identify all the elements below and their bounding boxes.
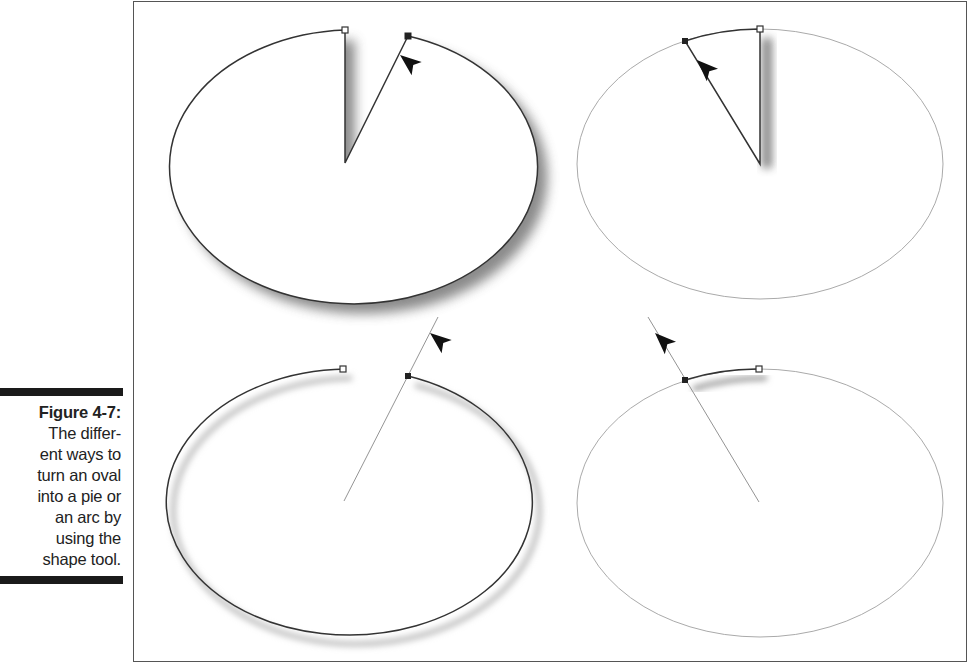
arrow-cursor-icon [655, 328, 678, 355]
arrow-cursor-icon [430, 327, 455, 355]
start-handle-icon[interactable] [757, 26, 763, 32]
panel-top-right-wedge [577, 26, 943, 299]
start-handle-icon[interactable] [340, 366, 346, 372]
start-handle-icon[interactable] [342, 27, 348, 33]
figure-canvas [0, 0, 970, 666]
end-handle-icon[interactable] [405, 33, 411, 39]
start-handle-icon[interactable] [756, 366, 762, 372]
panel-bottom-right-arc [577, 317, 943, 637]
panel-bottom-left-arc [166, 317, 539, 644]
end-handle-icon[interactable] [405, 373, 411, 379]
panel-top-left-pie [170, 27, 548, 314]
end-handle-icon[interactable] [682, 377, 688, 383]
end-handle-icon[interactable] [682, 38, 688, 44]
